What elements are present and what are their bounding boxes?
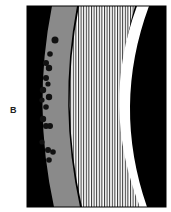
dot xyxy=(43,104,49,110)
dot xyxy=(45,147,51,153)
diagram-figure xyxy=(0,0,171,212)
dot xyxy=(39,139,44,144)
dot xyxy=(52,37,59,44)
dot xyxy=(47,123,53,129)
dot xyxy=(40,87,46,93)
dot xyxy=(39,97,44,102)
dot xyxy=(45,81,50,86)
dot xyxy=(46,157,52,163)
dot xyxy=(46,65,52,71)
dot xyxy=(43,75,49,81)
dot xyxy=(50,149,56,155)
dot xyxy=(46,94,52,100)
dot xyxy=(40,116,46,122)
dot xyxy=(47,51,53,57)
